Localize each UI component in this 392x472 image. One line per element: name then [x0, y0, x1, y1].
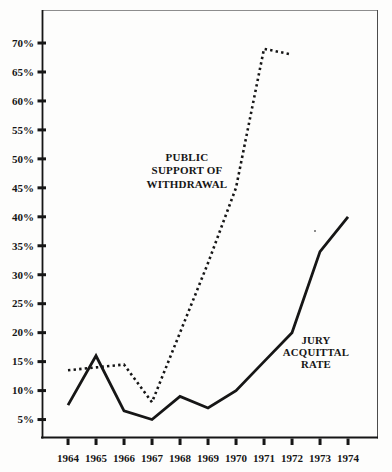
y-tick-label: 65%: [12, 66, 34, 78]
y-tick-label: 5%: [18, 413, 35, 425]
y-tick-label: 10%: [12, 384, 34, 396]
y-tick-label: 25%: [12, 297, 34, 309]
y-tick-label: 35%: [12, 240, 34, 252]
print-speck-artifact: [314, 230, 316, 232]
y-tick-label: 45%: [12, 182, 34, 194]
series-public-support-of-withdrawal-line: [68, 49, 292, 402]
y-tick-label: 20%: [12, 326, 34, 338]
line-chart: 70%65%60%55%50%45%40%35%30%25%20%15%10%5…: [0, 0, 392, 472]
x-tick-label: 1974: [337, 452, 360, 464]
y-tick-label: 15%: [12, 355, 34, 367]
x-tick-label: 1968: [169, 452, 192, 464]
x-tick-label: 1973: [309, 452, 332, 464]
y-tick-label: 70%: [12, 37, 34, 49]
x-tick-label: 1970: [225, 452, 248, 464]
y-tick-label: 50%: [12, 153, 34, 165]
y-tick-label: 60%: [12, 95, 34, 107]
x-tick-label: 1964: [57, 452, 80, 464]
x-tick-label: 1967: [141, 452, 164, 464]
x-tick-label: 1969: [197, 452, 220, 464]
scanned-chart-page: 70%65%60%55%50%45%40%35%30%25%20%15%10%5…: [0, 0, 392, 472]
y-tick-label: 30%: [12, 269, 34, 281]
y-tick-label: 55%: [12, 124, 34, 136]
y-tick-label: 40%: [12, 211, 34, 223]
series-jury-acquittal-rate-line: [68, 217, 348, 420]
x-tick-label: 1966: [113, 452, 136, 464]
x-tick-label: 1972: [281, 452, 304, 464]
x-tick-label: 1965: [85, 452, 108, 464]
x-tick-label: 1971: [253, 452, 275, 464]
